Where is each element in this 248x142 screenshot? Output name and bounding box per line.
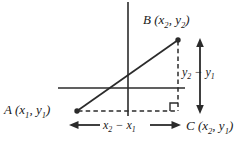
coordinate-distance-figure: B (x2, y2) A (x1, y1) C (x2, y1) y2 − y1… (0, 0, 248, 142)
point-c-name: C (186, 118, 195, 133)
delta-y-minus: − (191, 65, 205, 79)
right-angle-icon (170, 103, 178, 111)
point-c-label: C (x2, y1) (186, 119, 233, 135)
point-a-label: A (x1, y1) (4, 103, 50, 119)
delta-x-arrowhead-right (172, 121, 182, 129)
point-a-dot (74, 108, 79, 113)
point-a-name: A (4, 102, 12, 117)
point-a-close-paren: ) (46, 102, 50, 117)
delta-x-arrowhead-left (69, 121, 79, 129)
delta-y-label: y2 − y1 (182, 66, 215, 81)
delta-x-minus: − (112, 118, 126, 132)
point-b-dot (175, 37, 180, 42)
point-b-label: B (x2, y2) (143, 13, 190, 29)
point-b-name: B (143, 12, 151, 27)
point-c-close-paren: ) (229, 118, 233, 133)
delta-y-arrowhead-down (196, 105, 204, 114)
delta-x-second-subscript: 1 (132, 125, 136, 134)
point-b-open-paren: ( (151, 12, 159, 27)
point-b-close-paren: ) (185, 12, 189, 27)
delta-y-arrowhead-up (196, 38, 204, 47)
delta-y-second-subscript: 1 (211, 72, 215, 81)
delta-x-label: x2 − x1 (103, 119, 136, 134)
